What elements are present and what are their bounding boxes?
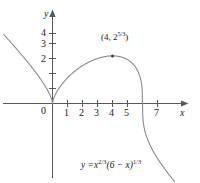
plot-svg (0, 0, 200, 182)
y-tick-label-2: 2 (41, 54, 46, 64)
math-figure: y x 0 1 2 3 4 5 7 2 3 4 (4, 25/3) y =x2/… (0, 0, 200, 182)
function-curve-arch (53, 56, 143, 104)
x-tick-label-1: 1 (64, 108, 69, 118)
equation-lhs: y = (81, 160, 94, 170)
x-tick-label-2: 2 (79, 108, 84, 118)
x-axis-label: x (180, 108, 184, 118)
y-tick-label-4: 4 (41, 28, 46, 38)
x-tick-label-7: 7 (154, 108, 159, 118)
y-tick-label-3: 3 (41, 39, 46, 49)
x-tick-label-3: 3 (94, 108, 99, 118)
max-point-marker (111, 54, 114, 57)
equation-mid: (6 − x) (106, 160, 132, 170)
function-curve-right-tail (143, 104, 184, 183)
equation-exponent-2: 1/3 (133, 158, 141, 165)
x-axis (3, 100, 189, 106)
equation-label: y =x2/3(6 − x)1/3 (81, 159, 141, 171)
origin-label: 0 (41, 106, 46, 116)
max-point-label: (4, 25/3) (101, 31, 128, 42)
max-point-close: ) (125, 32, 128, 42)
x-tick-label-5: 5 (124, 108, 129, 118)
max-point-base: (4, 2 (101, 32, 118, 42)
y-axis (49, 10, 55, 179)
y-axis-label: y (44, 9, 48, 19)
x-tick-label-4: 4 (109, 108, 114, 118)
